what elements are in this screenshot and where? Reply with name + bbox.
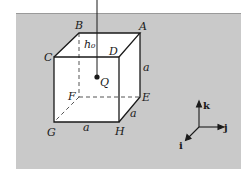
k-arrow-icon (197, 101, 202, 107)
axis-i-label: i (179, 140, 183, 151)
vertex-h-label: H (114, 125, 125, 138)
vertex-c-label: C (44, 51, 53, 64)
vertex-a-label: A (138, 20, 147, 33)
vertex-d-label: D (108, 45, 118, 58)
vertex-g-label: G (47, 126, 56, 139)
vertex-b-label: B (74, 19, 83, 32)
cube-diagram: B A C D E F G H Q h₀ a a a k j i (0, 0, 250, 177)
point-q-label: Q (100, 76, 109, 89)
axis-j-label: j (223, 122, 228, 133)
point-q-marker (94, 74, 99, 79)
edge-vertical-a-label: a (143, 61, 150, 74)
vertex-e-label: E (141, 91, 150, 104)
edge-bottom-a-label: a (83, 121, 90, 134)
edge-depth-a-label: a (130, 107, 137, 120)
height-h0-label: h₀ (84, 38, 96, 51)
vertex-f-label: F (67, 90, 76, 103)
axis-k-label: k (203, 100, 211, 111)
